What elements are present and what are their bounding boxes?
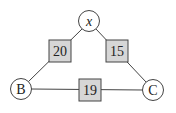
node-b-label: B (16, 82, 25, 97)
weight-x-b: 20 (53, 44, 67, 59)
weight-b-c: 19 (83, 83, 97, 98)
weight-box-b-c: 19 (79, 79, 101, 101)
triangle-graph: x B C 20 15 19 (0, 0, 176, 113)
node-c-label: C (148, 83, 157, 98)
weight-box-x-b: 20 (49, 40, 71, 62)
weight-x-c: 15 (110, 44, 124, 59)
node-x-label: x (85, 14, 93, 29)
node-c: C (143, 80, 164, 101)
node-x: x (79, 11, 100, 32)
weight-box-x-c: 15 (106, 40, 128, 62)
node-b: B (11, 79, 32, 100)
